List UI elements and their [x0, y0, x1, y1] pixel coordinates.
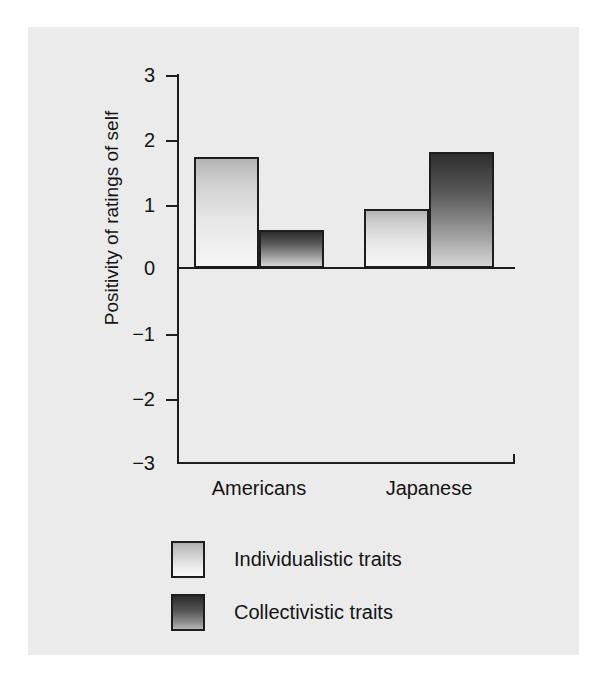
y-axis-spine	[177, 74, 179, 464]
legend: Individualistic traits Collectivistic tr…	[171, 533, 402, 639]
legend-item-collectivistic: Collectivistic traits	[171, 586, 402, 639]
bar-americans-individualistic	[194, 157, 259, 268]
figure-panel: 3 2 1 0 −1 −2 −3 Positivity of ratings o…	[28, 27, 579, 655]
legend-label-individualistic: Individualistic traits	[234, 548, 402, 571]
legend-swatch-collectivistic-icon	[171, 594, 205, 631]
y-axis-title: Positivity of ratings of self	[101, 98, 123, 338]
legend-swatch-individualistic-icon	[171, 541, 205, 578]
y-tick-label-minus-2: −2	[115, 389, 155, 409]
bar-japanese-collectivistic	[429, 152, 494, 268]
bar-americans-collectivistic	[259, 230, 324, 268]
plot-bottom-frame-end-cap	[513, 454, 515, 464]
legend-item-individualistic: Individualistic traits	[171, 533, 402, 586]
bar-japanese-individualistic	[364, 209, 429, 268]
plot-bottom-frame	[177, 462, 515, 464]
category-label-americans: Americans	[194, 477, 324, 500]
y-tick-label-minus-3: −3	[115, 453, 155, 473]
category-label-japanese: Japanese	[364, 477, 494, 500]
y-tick-label-3: 3	[115, 65, 155, 85]
legend-label-collectivistic: Collectivistic traits	[234, 601, 393, 624]
